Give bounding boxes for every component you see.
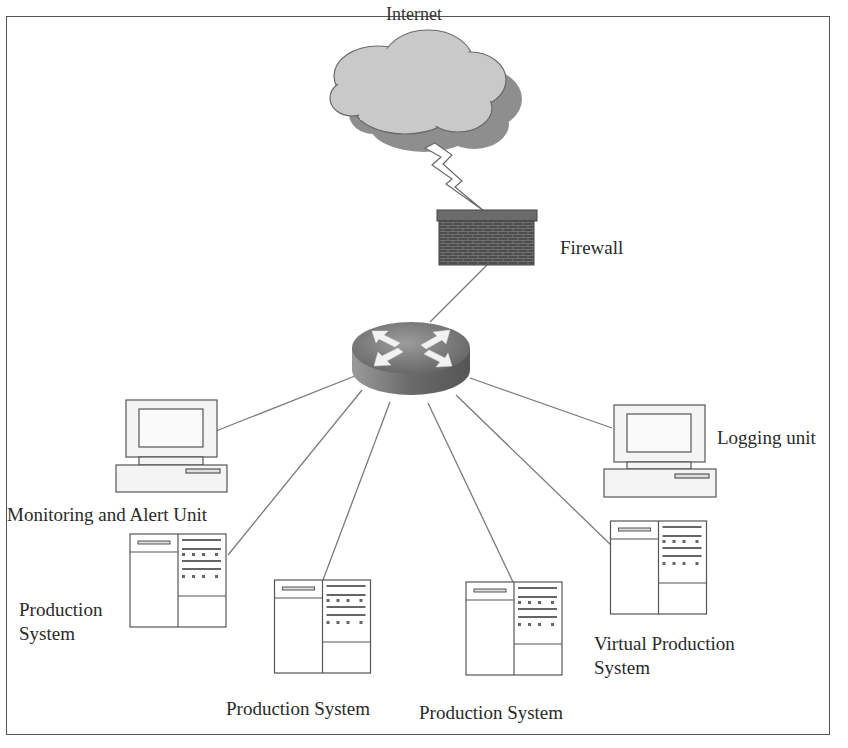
label-line-1: Virtual Production <box>594 632 735 656</box>
server-icon <box>275 580 371 673</box>
edge-router-monitoring <box>216 376 355 431</box>
label-line-2: System <box>594 656 735 680</box>
connection-lines <box>216 265 612 582</box>
desktop-computer-icon <box>604 405 716 497</box>
label-line-1: Production <box>19 598 102 622</box>
edge-router-production-mid2 <box>428 403 513 582</box>
production-system-left-label: Production System <box>19 598 102 646</box>
server-icon <box>466 582 562 675</box>
firewall-label: Firewall <box>560 236 623 260</box>
router-icon <box>352 322 470 395</box>
lightning-icon <box>425 143 484 211</box>
internet-label-text: Internet <box>386 2 442 26</box>
cloud-icon <box>330 30 522 152</box>
desktop-computer-icon <box>116 400 227 492</box>
edge-router-logging <box>470 378 612 428</box>
production-system-mid1-label: Production System <box>226 697 370 721</box>
edge-router-virtual-production <box>456 395 611 545</box>
label-line-2: System <box>19 622 102 646</box>
server-icon <box>611 521 707 614</box>
edge-router-production-mid1 <box>323 402 390 580</box>
logging-unit-label: Logging unit <box>717 426 816 450</box>
edge-firewall-router <box>430 265 487 322</box>
production-system-mid2-label: Production System <box>419 701 563 725</box>
virtual-production-system-label: Virtual Production System <box>594 632 735 680</box>
brick-wall-icon <box>437 210 537 265</box>
monitoring-unit-label: Monitoring and Alert Unit <box>7 503 207 527</box>
server-icon <box>130 534 226 627</box>
internet-label: Internet <box>386 0 442 26</box>
